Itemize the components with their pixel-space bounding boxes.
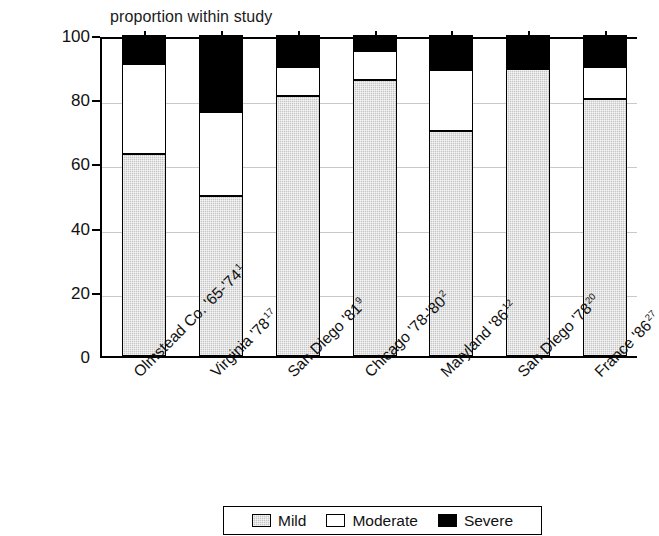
bar-stack [199, 35, 243, 356]
y-axis-tick-label: 80 [30, 92, 90, 109]
y-axis-tick-label: 100 [30, 28, 90, 45]
y-axis-tick-label: 20 [30, 285, 90, 302]
bar-segment-moderate [583, 67, 627, 99]
y-axis-tick-mark [92, 293, 100, 295]
plot-area [100, 37, 637, 358]
y-axis-tick-mark [92, 229, 100, 231]
bar-stack [276, 35, 320, 356]
bar-segment-mild [122, 154, 166, 356]
bar-stack [429, 35, 473, 356]
chart-legend: Mild Moderate Severe [223, 506, 542, 535]
bar-stack [583, 35, 627, 356]
legend-item-moderate: Moderate [326, 512, 417, 530]
bar-segment-mild [429, 131, 473, 356]
legend-swatch-severe-icon [438, 514, 457, 527]
bar-segment-moderate [276, 67, 320, 96]
legend-item-severe: Severe [438, 512, 513, 530]
bar-segment-severe [199, 35, 243, 112]
y-axis-tick-mark [92, 36, 100, 38]
bar-segment-severe [583, 35, 627, 67]
bar-stack [122, 35, 166, 356]
bar-segment-mild [199, 196, 243, 357]
bar-segment-moderate [353, 51, 397, 80]
y-axis-tick-mark [92, 164, 100, 166]
chart-title: proportion within study [110, 8, 272, 26]
legend-swatch-mild-icon [252, 514, 271, 527]
legend-label-moderate: Moderate [352, 512, 417, 530]
legend-item-mild: Mild [252, 512, 306, 530]
y-axis-tick-mark [92, 100, 100, 102]
bar-segment-moderate [429, 70, 473, 131]
bar-stack [353, 35, 397, 356]
y-axis-tick-label: 0 [30, 349, 90, 366]
bar-segment-mild [353, 80, 397, 356]
bar-segment-mild [506, 69, 550, 356]
y-axis-tick-label: 40 [30, 221, 90, 238]
bar-segment-moderate [199, 112, 243, 195]
bar-segment-severe [122, 35, 166, 64]
bar-segment-mild [583, 99, 627, 356]
y-axis-tick-label: 60 [30, 156, 90, 173]
bar-segment-severe [353, 35, 397, 51]
bar-segment-severe [276, 35, 320, 67]
bar-segment-mild [276, 96, 320, 356]
bar-segment-severe [506, 35, 550, 69]
legend-label-severe: Severe [464, 512, 513, 530]
bar-group [102, 39, 637, 356]
bar-stack [506, 35, 550, 356]
legend-label-mild: Mild [278, 512, 306, 530]
legend-swatch-moderate-icon [326, 514, 345, 527]
bar-segment-moderate [122, 64, 166, 154]
bar-segment-severe [429, 35, 473, 70]
